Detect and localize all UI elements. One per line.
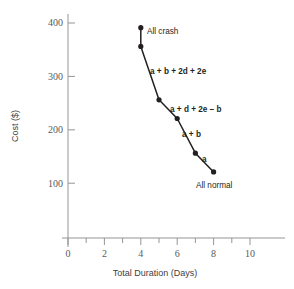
y-tick-label-200: 200 [48,124,63,135]
data-point-all-crash [138,25,143,30]
y-tick-label-400: 400 [48,17,63,28]
x-tick-label-6: 6 [175,248,180,259]
annotation-segment-4: a [202,155,207,164]
cost-curve-line [141,28,214,172]
x-tick-label-0: 0 [66,248,71,259]
data-point-4 [175,116,180,121]
annotation-all-crash: All crash [147,27,179,36]
x-tick-label-2: 2 [102,248,107,259]
x-tick-label-8: 8 [211,248,216,259]
data-points-group [138,25,216,174]
chart-canvas: 100 200 300 400 0 2 4 6 8 [0,0,294,289]
data-point-all-normal [211,169,216,174]
annotation-all-normal: All normal [196,181,233,190]
data-point-2 [138,44,143,49]
x-tick-label-10: 10 [245,248,255,259]
y-axis-tick-labels: 100 200 300 400 [48,17,63,188]
cost-vs-duration-chart: 100 200 300 400 0 2 4 6 8 [0,0,294,289]
y-tick-label-300: 300 [48,71,63,82]
annotation-segment-3: a + b [182,130,201,139]
x-axis-tick-labels: 0 2 4 6 8 10 [66,248,256,259]
annotation-segment-1: a + b + 2d + 2e [150,67,207,76]
y-axis-ticks [68,23,75,183]
annotations-group: All crash a + b + 2d + 2e a + d + 2e – b… [147,27,233,190]
axes-group [62,14,285,247]
data-point-3 [156,97,161,102]
data-point-5 [193,151,198,156]
x-axis-title: Total Duration (Days) [113,268,198,278]
annotation-segment-2: a + d + 2e – b [170,105,221,114]
x-axis-minor-ticks [86,238,232,243]
y-axis-title: Cost ($) [10,110,20,142]
y-tick-label-100: 100 [48,178,63,189]
x-tick-label-4: 4 [138,248,143,259]
